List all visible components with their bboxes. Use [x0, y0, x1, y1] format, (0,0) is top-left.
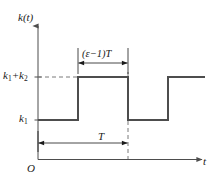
waveform-plot — [0, 0, 213, 179]
period-dimension — [38, 131, 128, 152]
y-tick-label-high: k1+k2 — [3, 70, 28, 83]
origin-label: O — [27, 163, 35, 174]
y-tick-label-low: k1 — [19, 113, 28, 126]
period-label: T — [98, 131, 104, 142]
guide-line-group — [38, 72, 128, 159]
y-tick-high-operator: + — [12, 69, 19, 81]
y-tick-low-sub: 1 — [24, 117, 28, 126]
axis-group — [38, 26, 202, 160]
waveform-figure: k(t) t O k1+k2 k1 (ε−1)T T — [0, 0, 213, 179]
pulse-width-label: (ε−1)T — [82, 49, 111, 60]
waveform-trace — [38, 77, 205, 120]
waveform-trace-group — [38, 77, 205, 120]
y-axis-label: k(t) — [18, 12, 33, 23]
y-tick-high-sub2: 2 — [24, 74, 28, 83]
x-axis-label: t — [203, 156, 206, 167]
